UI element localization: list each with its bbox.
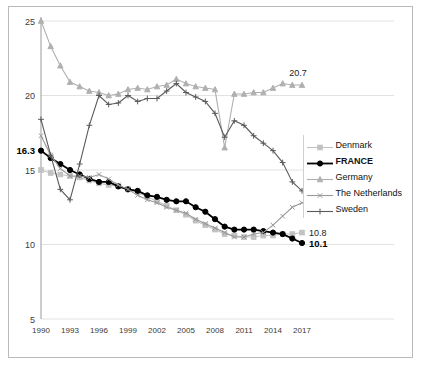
- x-axis-tick-label: 1996: [90, 326, 108, 335]
- data-point-marker: [318, 177, 323, 182]
- data-point-marker: [290, 205, 295, 210]
- data-point-marker: [58, 63, 63, 68]
- x-axis-tick-label: 2014: [264, 326, 282, 335]
- data-point-marker: [212, 217, 217, 222]
- data-point-marker: [183, 81, 188, 86]
- data-point-marker: [125, 87, 130, 92]
- legend-item-label: Germany: [334, 172, 372, 182]
- data-point-marker: [300, 230, 305, 235]
- legend-marker-icon: [306, 139, 334, 150]
- series-value-label: 16.3: [17, 145, 36, 156]
- data-point-marker: [251, 90, 256, 95]
- data-point-marker: [77, 161, 83, 167]
- legend-item-label: FRANCE: [334, 156, 373, 166]
- data-point-marker: [280, 214, 285, 219]
- legend-item-label: The Netherlands: [334, 188, 402, 198]
- data-point-marker: [86, 122, 92, 128]
- legend-item-label: Denmark: [334, 140, 372, 150]
- y-axis-tick-label: 10: [25, 240, 35, 250]
- data-point-marker: [106, 93, 111, 98]
- x-axis-tick-label: 1999: [119, 326, 137, 335]
- data-point-marker: [271, 223, 276, 228]
- data-point-marker: [299, 82, 304, 87]
- x-axis-tick-label: 2005: [177, 326, 195, 335]
- data-point-marker: [67, 167, 72, 172]
- legend-marker-icon: [306, 171, 334, 182]
- x-axis-tick-label: 2002: [148, 326, 166, 335]
- data-point-marker: [174, 199, 179, 204]
- series-germany: [38, 18, 304, 150]
- data-point-marker: [261, 90, 266, 95]
- data-point-marker: [241, 227, 246, 232]
- data-point-marker: [58, 172, 63, 177]
- data-point-marker: [77, 84, 82, 89]
- data-point-marker: [96, 179, 101, 184]
- legend-item-germany[interactable]: Germany: [306, 170, 402, 183]
- data-point-marker: [48, 171, 53, 176]
- data-point-marker: [232, 227, 237, 232]
- x-axis-tick-label: 1993: [61, 326, 79, 335]
- data-point-marker: [193, 84, 198, 89]
- data-point-marker: [299, 240, 304, 245]
- data-point-marker: [145, 193, 150, 198]
- data-point-marker: [290, 82, 295, 87]
- data-point-marker: [318, 209, 324, 215]
- series-the-netherlands: [39, 133, 305, 239]
- data-point-marker: [232, 91, 237, 96]
- series-value-label: 10.1: [309, 238, 328, 249]
- data-point-marker: [38, 116, 44, 122]
- series-sweden: [38, 81, 305, 203]
- x-axis-tick-label: 2011: [235, 326, 253, 335]
- data-point-marker: [231, 118, 237, 124]
- x-axis-tick-label: 2017: [293, 326, 311, 335]
- data-point-marker: [154, 194, 159, 199]
- x-axis-tick-label: 1990: [32, 326, 50, 335]
- chart-frame: 5101520251990199319961999200220052008201…: [8, 6, 413, 358]
- data-point-marker: [203, 209, 208, 214]
- data-point-marker: [318, 145, 323, 150]
- data-point-marker: [222, 145, 227, 150]
- legend-item-france[interactable]: FRANCE: [306, 154, 402, 167]
- data-point-marker: [174, 76, 179, 81]
- data-point-marker: [241, 91, 246, 96]
- data-point-marker: [38, 18, 43, 23]
- data-point-marker: [135, 99, 141, 105]
- y-axis-tick-label: 25: [25, 17, 35, 27]
- data-point-marker: [38, 148, 43, 153]
- data-point-marker: [203, 85, 208, 90]
- data-point-marker: [270, 85, 275, 90]
- data-point-marker: [164, 82, 169, 87]
- legend-marker-icon: [306, 187, 334, 198]
- data-point-marker: [116, 91, 121, 96]
- data-point-marker: [39, 168, 44, 173]
- legend-item-sweden[interactable]: Sweden: [306, 202, 402, 215]
- data-point-marker: [280, 81, 285, 86]
- legend-item-the-netherlands[interactable]: The Netherlands: [306, 186, 402, 199]
- y-axis-tick-label: 20: [25, 91, 35, 101]
- y-axis-tick-label: 5: [30, 315, 35, 325]
- data-point-marker: [222, 224, 227, 229]
- data-point-marker: [135, 188, 140, 193]
- data-point-marker: [145, 87, 150, 92]
- data-point-marker: [212, 87, 217, 92]
- legend-marker-icon: [306, 155, 334, 166]
- data-point-marker: [318, 161, 323, 166]
- series-value-label: 20.7: [289, 68, 307, 78]
- x-axis-tick-label: 2008: [206, 326, 224, 335]
- data-point-marker: [251, 227, 256, 232]
- legend-item-denmark[interactable]: Denmark: [306, 138, 402, 151]
- data-point-marker: [154, 84, 159, 89]
- data-point-marker: [290, 236, 295, 241]
- data-point-marker: [193, 94, 199, 100]
- legend-item-label: Sweden: [334, 204, 368, 214]
- data-point-marker: [67, 79, 72, 84]
- data-point-marker: [183, 199, 188, 204]
- y-axis-tick-label: 15: [25, 166, 35, 176]
- legend-marker-icon: [306, 203, 334, 214]
- chart-legend: DenmarkFRANCEGermanyThe NetherlandsSwede…: [303, 135, 406, 218]
- data-point-marker: [164, 197, 169, 202]
- data-point-marker: [270, 230, 275, 235]
- data-point-marker: [87, 88, 92, 93]
- data-point-marker: [193, 205, 198, 210]
- data-point-marker: [280, 231, 285, 236]
